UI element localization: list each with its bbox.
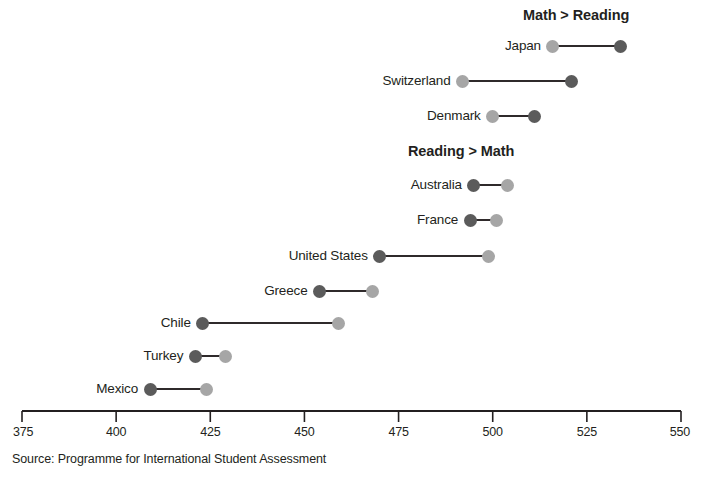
math-dot [565, 75, 578, 88]
source-note: Source: Programme for International Stud… [12, 452, 326, 466]
chart-row: Switzerland [0, 71, 705, 91]
reading-dot [219, 350, 232, 363]
math-dot [467, 179, 480, 192]
reading-dot [501, 179, 514, 192]
row-label: France [417, 212, 458, 227]
connector-line [380, 255, 489, 257]
connector-line [203, 322, 339, 324]
reading-dot [366, 285, 379, 298]
chart-row: France [0, 210, 705, 230]
axis-tick-label: 375 [13, 425, 33, 439]
axis-tick-label: 450 [294, 425, 314, 439]
chart-row: Turkey [0, 346, 705, 366]
math-dot [528, 110, 541, 123]
reading-dot [332, 317, 345, 330]
chart-row: Mexico [0, 379, 705, 399]
row-label: United States [289, 248, 368, 263]
chart-row: Chile [0, 313, 705, 333]
connector-line [150, 388, 206, 390]
axis-tick-label: 425 [200, 425, 220, 439]
connector-line [319, 290, 372, 292]
reading-dot [482, 250, 495, 263]
dumbbell-chart: Math > Reading Reading > Math JapanSwitz… [0, 0, 705, 477]
row-label: Turkey [143, 348, 183, 363]
math-dot [614, 40, 627, 53]
section-heading-math-greater-reading: Math > Reading [523, 7, 629, 23]
reading-dot [456, 75, 469, 88]
connector-line [553, 45, 621, 47]
axis-tick-label: 525 [577, 425, 597, 439]
axis-tick-label: 500 [483, 425, 503, 439]
chart-row: Australia [0, 175, 705, 195]
axis-tick-label: 475 [388, 425, 408, 439]
row-label: Denmark [427, 108, 481, 123]
section-heading-reading-greater-math: Reading > Math [408, 143, 514, 159]
row-label: Mexico [96, 381, 138, 396]
math-dot [189, 350, 202, 363]
axis-tick-label: 550 [670, 425, 690, 439]
math-dot [373, 250, 386, 263]
connector-line [463, 80, 572, 82]
reading-dot [486, 110, 499, 123]
chart-row: Denmark [0, 106, 705, 126]
reading-dot [200, 383, 213, 396]
chart-row: Japan [0, 36, 705, 56]
chart-row: Greece [0, 281, 705, 301]
row-label: Switzerland [382, 73, 450, 88]
row-label: Japan [505, 38, 541, 53]
chart-row: United States [0, 246, 705, 266]
math-dot [144, 383, 157, 396]
math-dot [464, 214, 477, 227]
reading-dot [490, 214, 503, 227]
row-label: Australia [411, 177, 462, 192]
row-label: Chile [161, 315, 191, 330]
row-label: Greece [264, 283, 307, 298]
math-dot [196, 317, 209, 330]
math-dot [313, 285, 326, 298]
reading-dot [546, 40, 559, 53]
axis-tick-label: 400 [106, 425, 126, 439]
